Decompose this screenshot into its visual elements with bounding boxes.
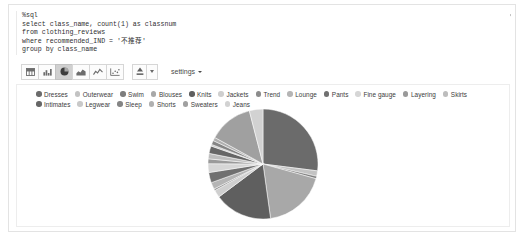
code-line-2: select class_name, count(1) as classnum — [22, 21, 510, 30]
legend-color-dot — [77, 101, 83, 107]
legend-color-dot — [324, 91, 330, 97]
line-chart-button[interactable] — [89, 64, 107, 80]
pie-chart[interactable] — [207, 108, 319, 220]
visualization-toolbar: settings — [21, 63, 202, 80]
legend-color-dot — [218, 91, 224, 97]
legend-item[interactable]: Jackets — [218, 89, 248, 99]
sql-editor[interactable]: %sql select class_name, count(1) as clas… — [16, 11, 510, 55]
legend-color-dot — [443, 91, 449, 97]
code-line-4: where recommended_IND = '不推荐' — [22, 38, 510, 47]
settings-label: settings — [171, 68, 195, 75]
download-button-group — [132, 64, 158, 80]
area-chart-button[interactable] — [72, 64, 90, 80]
code-line-5: group by class_name — [22, 46, 510, 55]
table-view-button[interactable] — [21, 64, 39, 80]
legend-item-label: Blouses — [159, 91, 182, 98]
legend-item-label: Dresses — [44, 91, 68, 98]
code-line-1: %sql — [22, 12, 510, 21]
chevron-down-icon — [150, 70, 154, 73]
legend-item-label: Pants — [332, 91, 349, 98]
pie-chart-container — [17, 107, 509, 226]
legend-color-dot — [149, 101, 155, 107]
legend-item-label: Trend — [264, 91, 281, 98]
legend-item[interactable]: Outerwear — [75, 89, 113, 99]
settings-dropdown[interactable]: settings — [171, 68, 202, 75]
legend-item-label: Swim — [128, 91, 144, 98]
code-line-3: from clothing_reviews — [22, 29, 510, 38]
pie-chart-button[interactable] — [55, 64, 73, 80]
legend-color-dot — [355, 91, 361, 97]
chevron-down-icon — [198, 71, 202, 73]
legend-color-dot — [120, 91, 126, 97]
pie-slice[interactable] — [263, 109, 318, 171]
chart-result-area: DressesOuterwearSwimBlousesKnitsJacketsT… — [16, 84, 510, 227]
download-icon[interactable] — [132, 64, 147, 80]
legend-color-dot — [117, 101, 123, 107]
legend-color-dot — [151, 91, 157, 97]
legend-color-dot — [403, 91, 409, 97]
legend-item[interactable]: Layering — [403, 89, 436, 99]
legend-item-label: Outerwear — [83, 91, 113, 98]
legend-item[interactable]: Lounge — [287, 89, 317, 99]
legend-item-label: Skirts — [451, 91, 467, 98]
chart-legend: DressesOuterwearSwimBlousesKnitsJacketsT… — [36, 89, 496, 109]
chart-type-button-group — [21, 64, 123, 80]
legend-item[interactable]: Fine gauge — [355, 89, 395, 99]
legend-color-dot — [225, 101, 231, 107]
scatter-chart-button[interactable] — [106, 64, 124, 80]
bar-chart-button[interactable] — [38, 64, 56, 80]
legend-color-dot — [256, 91, 262, 97]
legend-item[interactable]: Pants — [324, 89, 349, 99]
legend-item-label: Lounge — [295, 91, 317, 98]
legend-color-dot — [36, 91, 42, 97]
notebook-paragraph: SPARK JOB FINISHED — [8, 4, 516, 232]
legend-item-label: Fine gauge — [363, 91, 395, 98]
legend-color-dot — [189, 91, 195, 97]
legend-item[interactable]: Dresses — [36, 89, 68, 99]
legend-item[interactable]: Knits — [189, 89, 211, 99]
legend-color-dot — [36, 101, 42, 107]
legend-color-dot — [287, 91, 293, 97]
legend-item-label: Jackets — [226, 91, 248, 98]
legend-item-label: Knits — [197, 91, 211, 98]
legend-color-dot — [183, 101, 189, 107]
legend-color-dot — [75, 91, 81, 97]
legend-item[interactable]: Swim — [120, 89, 144, 99]
screenshot-root: SPARK JOB FINISHED — [0, 0, 524, 238]
legend-item-label: Layering — [411, 91, 436, 98]
legend-item[interactable]: Skirts — [443, 89, 467, 99]
legend-item[interactable]: Trend — [256, 89, 281, 99]
download-dropdown-button[interactable] — [147, 64, 158, 80]
legend-item[interactable]: Blouses — [151, 89, 182, 99]
